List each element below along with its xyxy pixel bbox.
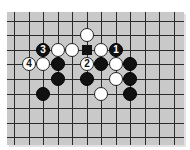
white-stone-move-2: 2 [80, 57, 94, 71]
white-stone [36, 57, 50, 71]
black-stone [80, 72, 94, 86]
black-stone [123, 72, 137, 86]
white-stone [109, 72, 123, 86]
white-stone [80, 28, 94, 42]
go-board[interactable]: 3142 [7, 12, 184, 145]
black-stone-move-1: 1 [109, 43, 123, 57]
grid-line-horizontal [7, 108, 184, 109]
white-stone [51, 43, 65, 57]
white-stone [94, 87, 108, 101]
white-stone [109, 57, 123, 71]
grid-line-horizontal [7, 35, 184, 36]
black-stone [94, 57, 108, 71]
black-stone [51, 57, 65, 71]
white-stone-move-4: 4 [22, 57, 36, 71]
black-stone [36, 87, 50, 101]
white-stone [94, 43, 108, 57]
black-stone [123, 57, 137, 71]
black-stone [123, 87, 137, 101]
grid-line-horizontal [7, 21, 184, 22]
grid-line-horizontal [7, 79, 184, 80]
grid-line-horizontal [7, 137, 184, 138]
grid-line-horizontal [7, 123, 184, 124]
black-stone [51, 72, 65, 86]
black-stone-move-3: 3 [36, 43, 50, 57]
white-stone [65, 43, 79, 57]
square-marker-icon [82, 45, 92, 55]
